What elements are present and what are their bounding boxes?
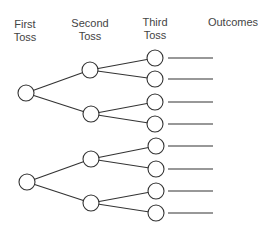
branch-line <box>91 159 156 169</box>
first-toss-node <box>18 85 34 101</box>
branch-line <box>91 102 155 114</box>
branch-line <box>27 182 91 203</box>
third-toss-node <box>148 161 164 177</box>
second-toss-node <box>83 195 99 211</box>
branch-line <box>91 191 156 203</box>
third-toss-node <box>147 71 163 87</box>
second-toss-node <box>83 106 99 122</box>
third-toss-node <box>148 183 164 199</box>
third-toss-node <box>148 138 164 154</box>
branch-line <box>26 70 90 93</box>
outcome-blank-lines <box>168 58 213 213</box>
third-toss-node <box>147 50 163 66</box>
second-toss-node <box>83 151 99 167</box>
branch-line <box>91 146 156 159</box>
branch-line <box>26 93 91 114</box>
branch-line <box>90 58 155 70</box>
third-toss-node <box>148 205 164 221</box>
first-toss-node <box>19 174 35 190</box>
third-toss-node <box>147 116 163 132</box>
branch-line <box>27 159 91 182</box>
tree-nodes <box>18 50 164 221</box>
probability-tree-diagram <box>0 0 258 242</box>
tree-edges <box>26 58 156 213</box>
branch-line <box>91 114 155 124</box>
second-toss-node <box>82 62 98 78</box>
branch-line <box>91 203 156 213</box>
branch-line <box>90 70 155 79</box>
third-toss-node <box>147 94 163 110</box>
